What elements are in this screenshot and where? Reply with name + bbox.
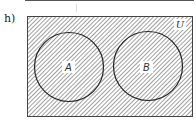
set-a-label: A bbox=[64, 62, 72, 73]
set-b-label: B bbox=[143, 62, 150, 73]
universe-label: U bbox=[176, 19, 185, 30]
universe-rectangle bbox=[28, 17, 193, 117]
venn-diagram: U A B bbox=[0, 0, 196, 121]
